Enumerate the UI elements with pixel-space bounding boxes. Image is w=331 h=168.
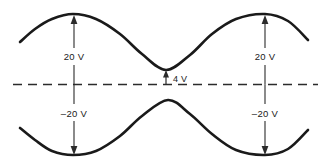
dim-lower-right-minus20v: –20 V (252, 85, 279, 156)
arrow-head-up-right-peak (262, 15, 269, 24)
arrow-head-up-left-peak (71, 15, 78, 24)
dim-lower-left-minus20v: –20 V (61, 85, 88, 156)
waveform-figure: 20 V –20 V 20 V –20 V 4 V (0, 0, 331, 168)
waveform-svg: 20 V –20 V 20 V –20 V 4 V (0, 0, 331, 168)
dim-label-upper-right: 20 V (255, 51, 276, 62)
dim-upper-right-20v: 20 V (255, 15, 276, 85)
dim-upper-left-20v: 20 V (64, 15, 85, 85)
dim-center-4v: 4 V (163, 70, 187, 85)
dim-label-lower-right: –20 V (252, 108, 279, 119)
dim-label-upper-left: 20 V (64, 51, 85, 62)
dim-label-lower-left: –20 V (61, 108, 88, 119)
dim-label-center-4v: 4 V (173, 74, 187, 84)
